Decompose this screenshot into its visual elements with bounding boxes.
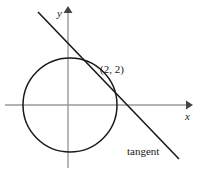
- y-axis: [64, 6, 73, 168]
- x-axis: [5, 101, 193, 110]
- y-axis-label: y: [56, 7, 62, 19]
- y-axis-arrowhead-icon: [64, 6, 73, 13]
- tangent-line: [38, 12, 179, 159]
- tangent-point-label: (2, 2): [100, 63, 124, 76]
- x-axis-label: x: [184, 110, 190, 122]
- tangent-line-label: tangent: [127, 145, 159, 157]
- x-axis-arrowhead-icon: [186, 101, 193, 110]
- figure-canvas: y x (2, 2) tangent: [0, 0, 204, 173]
- tangent-circle-figure: y x (2, 2) tangent: [0, 0, 204, 173]
